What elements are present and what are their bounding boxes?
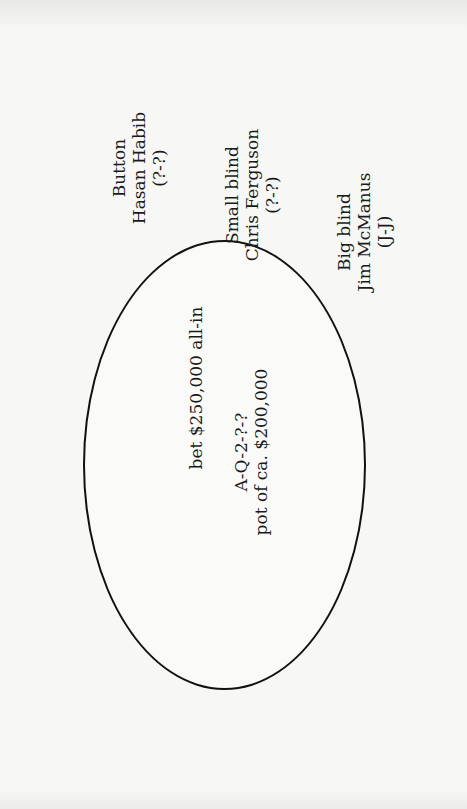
seat-position-label: Big blind bbox=[334, 173, 354, 292]
poker-table-ellipse bbox=[83, 240, 366, 690]
player-name: Hasan Habib bbox=[129, 112, 149, 224]
seat-position-label: Button bbox=[109, 112, 129, 224]
pot-size: pot of ca. $200,000 bbox=[251, 369, 271, 536]
seat-big-blind: Big blind Jim McManus (J-J) bbox=[334, 173, 394, 292]
player-name: Chris Ferguson bbox=[242, 129, 262, 261]
player-name: Jim McManus bbox=[354, 173, 374, 292]
bet-amount: bet $250,000 all-in bbox=[186, 307, 206, 470]
board-cards: A-Q-2-?-? bbox=[231, 369, 251, 536]
player-cards: (J-J) bbox=[374, 173, 394, 292]
player-cards: (?-?) bbox=[149, 112, 169, 224]
seat-small-blind: Small blind Chris Ferguson (?-?) bbox=[222, 129, 282, 261]
bet-label: bet $250,000 all-in bbox=[186, 307, 206, 470]
board-and-pot: A-Q-2-?-? pot of ca. $200,000 bbox=[231, 369, 271, 536]
player-cards: (?-?) bbox=[262, 129, 282, 261]
seat-button: Button Hasan Habib (?-?) bbox=[109, 112, 169, 224]
seat-position-label: Small blind bbox=[222, 129, 242, 261]
